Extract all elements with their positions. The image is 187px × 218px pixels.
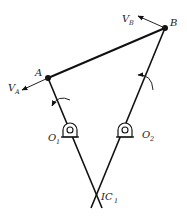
label-b: B — [169, 17, 177, 28]
ground-pivot-o2-icon — [116, 123, 134, 137]
velocity-vb-arrow — [138, 16, 165, 28]
label-a: A — [34, 67, 42, 78]
label-ic1-sub: 1 — [114, 197, 118, 205]
label-o2-sub: 2 — [149, 135, 154, 143]
label-o2: O — [142, 129, 150, 140]
label-o1-sub: 1 — [56, 138, 60, 146]
label-ic1: IC — [100, 191, 113, 202]
ground-pivot-o1-icon — [61, 123, 79, 137]
four-bar-linkage-diagram: A B V A V B O 1 O 2 IC 1 — [0, 0, 187, 218]
label-vb-sub: B — [128, 19, 134, 27]
label-va-sub: A — [14, 88, 20, 96]
rotation-arrow-link1-icon — [52, 98, 70, 106]
label-o1: O — [48, 132, 56, 143]
velocity-va-arrow — [22, 78, 48, 90]
